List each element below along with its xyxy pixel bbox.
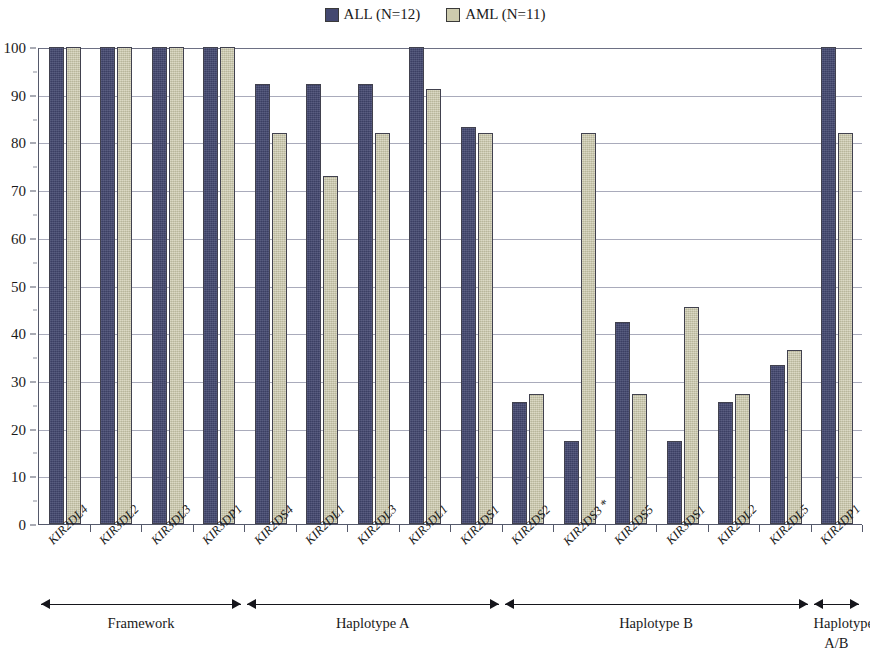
y-axis-minor-tickmark [33,453,37,454]
y-axis-minor-tickmark [33,167,37,168]
y-axis-minor-tickmark [33,71,37,72]
y-axis-tick-label: 30 [11,374,26,389]
group-bracket: Framework [41,596,241,660]
chart-legend: ALL (N=12) AML (N=11) [0,6,870,23]
y-axis-tickmark [30,143,36,144]
bar [409,47,424,524]
y-axis: 1009080706050403020100 [0,48,34,525]
y-axis-tickmark [30,191,36,192]
bar [770,365,785,524]
bar [461,127,476,524]
arrow-left-icon [41,599,50,609]
y-axis-tick-label: 20 [11,422,26,437]
bar [306,84,321,524]
bracket-label: HaplotypeA/B [814,614,860,653]
bar [512,402,527,524]
group-brackets: FrameworkHaplotype AHaplotype BHaplotype… [0,596,870,660]
bar [718,402,733,524]
y-axis-minor-tickmark [33,119,37,120]
bracket-line [505,604,808,605]
y-axis-minor-tickmark [33,262,37,263]
bar [787,350,802,524]
y-axis-tick-label: 80 [11,136,26,151]
y-axis-tick-label: 90 [11,88,26,103]
bar [100,47,115,524]
x-axis-labels: KIR2DL4KIR3DL2KIR3DL3KIR3DP1KIR2DS4KIR2D… [0,525,870,595]
y-axis-minor-tickmark [33,310,37,311]
bar [821,47,836,524]
bar-series-container [39,48,862,524]
square-swatch-icon [446,8,460,22]
legend-item-aml: AML (N=11) [446,6,545,23]
bar [838,133,853,524]
bar [152,47,167,524]
y-axis-tickmark [30,477,36,478]
bar [667,441,682,524]
bar [272,133,287,524]
y-axis-tick-label: 70 [11,184,26,199]
group-bracket: HaplotypeA/B [814,596,860,660]
bracket-label: Haplotype B [505,614,808,634]
y-axis-minor-tickmark [33,214,37,215]
bar [255,84,270,524]
bar [323,176,338,524]
y-axis-tick-label: 100 [4,41,27,56]
group-bracket: Haplotype A [247,596,499,660]
y-axis-tickmark [30,429,36,430]
legend-label-aml: AML (N=11) [465,6,545,23]
y-axis-tick-label: 40 [11,327,26,342]
bracket-line [41,604,241,605]
bracket-line [247,604,499,605]
bar [564,441,579,524]
bar [684,307,699,524]
y-axis-tickmark [30,95,36,96]
square-swatch-icon [325,8,339,22]
y-axis-tickmark [30,286,36,287]
y-axis-tickmark [30,381,36,382]
bar [169,47,184,524]
y-axis-tickmark [30,48,36,49]
y-axis-minor-tickmark [33,405,37,406]
arrow-left-icon [814,599,823,609]
bar [203,47,218,524]
bar [375,133,390,524]
arrow-right-icon [490,599,499,609]
plot-area [38,48,862,525]
bar [615,322,630,524]
arrow-right-icon [232,599,241,609]
y-axis-tick-label: 60 [11,231,26,246]
arrow-left-icon [247,599,256,609]
bracket-label: Haplotype A [247,614,499,634]
bar [49,47,64,524]
legend-item-all: ALL (N=12) [325,6,421,23]
group-bracket: Haplotype B [505,596,808,660]
bar [358,84,373,524]
y-axis-minor-tickmark [33,501,37,502]
bar [581,133,596,524]
arrow-right-icon [850,599,859,609]
arrow-left-icon [505,599,514,609]
bar [66,47,81,524]
y-axis-tickmark [30,238,36,239]
bar [117,47,132,524]
bracket-label: Framework [41,614,241,634]
bar [426,89,441,524]
y-axis-tick-label: 10 [11,470,26,485]
bar [220,47,235,524]
arrow-right-icon [799,599,808,609]
y-axis-tick-label: 50 [11,279,26,294]
y-axis-tickmark [30,334,36,335]
legend-label-all: ALL (N=12) [344,6,421,23]
bar [478,133,493,524]
y-axis-minor-tickmark [33,358,37,359]
